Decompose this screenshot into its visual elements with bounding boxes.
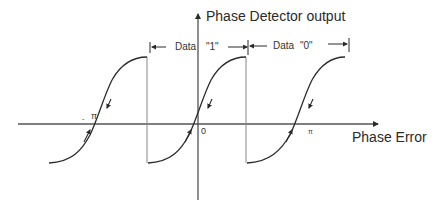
tick-neg-pi: π [91, 112, 97, 121]
arrow-down-zero [208, 99, 212, 108]
interval-label-0-word: Data [273, 41, 294, 51]
interval-label-1-value: "1" [206, 42, 219, 52]
interval-label-1-word: Data [175, 42, 196, 52]
tick-neg-sign: - [82, 115, 84, 122]
x-axis-title: Phase Error [352, 130, 427, 144]
phase-detector-diagram [0, 0, 441, 212]
tick-pos-pi: π [308, 128, 313, 135]
y-axis-title: Phase Detector output [206, 9, 345, 23]
tick-zero: 0 [201, 127, 206, 136]
curve-segment-neg-pi [49, 57, 147, 163]
arrow-up-zero [185, 130, 191, 142]
arrow-down-neg-pi [107, 99, 111, 108]
interval-label-0-value: "0" [300, 41, 313, 51]
arrow-down-pos-pi [309, 99, 313, 108]
curve-segment-zero [148, 57, 246, 163]
curve-segment-pos-pi [247, 57, 345, 163]
arrow-up-pos-pi [286, 130, 292, 142]
